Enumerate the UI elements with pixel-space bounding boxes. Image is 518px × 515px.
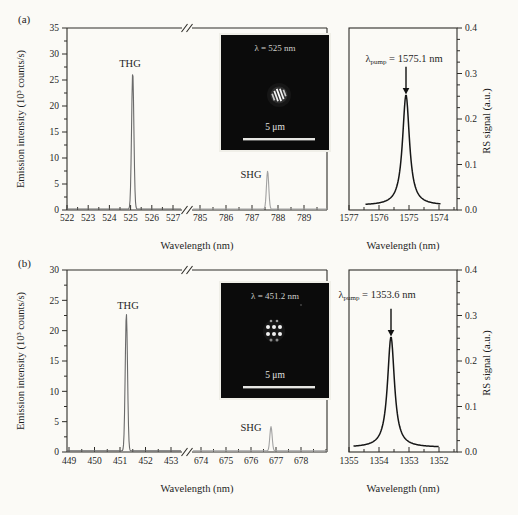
panel-b-label: (b) bbox=[18, 257, 31, 269]
tick-label: 0 bbox=[54, 447, 59, 457]
inset-scale-label-b: 5 μm bbox=[265, 370, 285, 380]
tick-label: 452 bbox=[138, 456, 153, 466]
rs-x-axis-label-a: Wavelength (nm) bbox=[367, 241, 440, 252]
tick-label: 527 bbox=[166, 213, 181, 223]
tick-label: 0.3 bbox=[465, 69, 477, 79]
pump-value: = 1575.1 nm bbox=[386, 53, 442, 64]
panel-a-label: (a) bbox=[18, 13, 30, 25]
inset-scale-label-a: 5 μm bbox=[265, 122, 285, 132]
dust-speck bbox=[300, 304, 302, 306]
pump-arrow-head-a bbox=[403, 88, 410, 94]
tick-label: 785 bbox=[193, 213, 208, 223]
shg-peak-label-a: SHG bbox=[240, 170, 261, 181]
tick-label: 30 bbox=[50, 49, 60, 59]
tick-label: 675 bbox=[219, 456, 234, 466]
thg-peak-label-b: THG bbox=[117, 301, 139, 312]
emission-y-axis-label-b: Emission intensity (10³ counts/s) bbox=[16, 292, 27, 430]
tick-label: 787 bbox=[245, 213, 260, 223]
tick-label: 25 bbox=[50, 75, 60, 85]
tick-label: 1577 bbox=[340, 213, 359, 223]
pump-subscript: pump bbox=[344, 294, 360, 302]
tick-label: 15 bbox=[50, 127, 60, 137]
tick-label: 25 bbox=[50, 296, 60, 306]
tick-label: 0.2 bbox=[465, 114, 477, 124]
raman-curve-b bbox=[354, 337, 439, 446]
pump-value: = 1353.6 nm bbox=[359, 289, 415, 300]
spot-halo bbox=[263, 320, 285, 342]
tick-label: 676 bbox=[244, 456, 259, 466]
emission-y-axis-label-a: Emission intensity (10³ counts/s) bbox=[16, 50, 27, 188]
tick-label: 0.3 bbox=[465, 311, 477, 321]
inset-wavelength-label-a: λ = 525 nm bbox=[254, 43, 295, 53]
figure: 0510152025303552252352452552652778578678… bbox=[0, 0, 518, 515]
tick-label: 524 bbox=[102, 213, 117, 223]
tick-label: 674 bbox=[194, 456, 209, 466]
tick-label: 1575 bbox=[400, 213, 419, 223]
tick-label: 453 bbox=[164, 456, 179, 466]
tick-label: 450 bbox=[87, 456, 102, 466]
tick-label: 0.2 bbox=[465, 356, 477, 366]
shg-peak-label-b: SHG bbox=[240, 423, 261, 434]
tick-label: 0.4 bbox=[465, 265, 477, 275]
tick-label: 788 bbox=[271, 213, 286, 223]
rs-y-axis-label-b: RS signal (a.u.) bbox=[482, 330, 493, 395]
scale-bar bbox=[243, 386, 315, 388]
tick-label: 0.4 bbox=[465, 23, 477, 33]
tick-label: 1355 bbox=[340, 456, 359, 466]
tick-label: 5 bbox=[54, 179, 59, 189]
tick-label: 1354 bbox=[370, 456, 389, 466]
tick-label: 1576 bbox=[370, 213, 389, 223]
microscope-inset-b: λ = 451.2 nm 5 μm bbox=[219, 281, 331, 400]
raman-curve-a bbox=[366, 95, 441, 204]
tick-label: 20 bbox=[50, 101, 60, 111]
tick-label: 20 bbox=[50, 326, 60, 336]
tick-label: 0 bbox=[54, 205, 59, 215]
tick-label: 35 bbox=[50, 23, 60, 33]
rs-y-axis-label-a: RS signal (a.u.) bbox=[482, 88, 493, 153]
pump-arrow-head-b bbox=[388, 330, 395, 336]
pump-annotation-b: λpump = 1353.6 nm bbox=[338, 290, 415, 302]
microscope-inset-a: λ = 525 nm 5 μm bbox=[219, 33, 331, 152]
tick-label: 10 bbox=[50, 387, 60, 397]
spectrum-line-a-seg0 bbox=[67, 75, 181, 209]
pump-annotation-a: λpump = 1575.1 nm bbox=[365, 54, 442, 66]
rs-x-axis-label-b: Wavelength (nm) bbox=[367, 484, 440, 495]
tick-label: 678 bbox=[294, 456, 309, 466]
tick-label: 449 bbox=[62, 456, 77, 466]
spectrum-line-b-seg0 bbox=[67, 315, 181, 451]
emission-x-axis-label-b: Wavelength (nm) bbox=[161, 484, 234, 495]
scale-bar bbox=[243, 138, 315, 140]
tick-label: 526 bbox=[145, 213, 160, 223]
tick-label: 0.0 bbox=[465, 205, 477, 215]
tick-label: 522 bbox=[60, 213, 75, 223]
tick-label: 15 bbox=[50, 356, 60, 366]
thg-peak-label-a: THG bbox=[119, 59, 141, 70]
emission-x-axis-label-a: Wavelength (nm) bbox=[161, 241, 234, 252]
tick-label: 1352 bbox=[430, 456, 449, 466]
tick-label: 789 bbox=[297, 213, 312, 223]
tick-label: 10 bbox=[50, 153, 60, 163]
tick-label: 786 bbox=[219, 213, 234, 223]
tick-label: 523 bbox=[81, 213, 96, 223]
pump-subscript: pump bbox=[371, 58, 387, 66]
tick-label: 0.1 bbox=[465, 160, 477, 170]
tick-label: 451 bbox=[113, 456, 128, 466]
inset-wavelength-label-b: λ = 451.2 nm bbox=[251, 291, 299, 301]
tick-label: 1353 bbox=[400, 456, 419, 466]
tick-label: 1574 bbox=[430, 213, 449, 223]
tick-label: 0.1 bbox=[465, 402, 477, 412]
tick-label: 30 bbox=[50, 265, 60, 275]
tick-label: 5 bbox=[54, 417, 59, 427]
tick-label: 0.0 bbox=[465, 447, 477, 457]
tick-label: 525 bbox=[123, 213, 138, 223]
tick-label: 677 bbox=[269, 456, 284, 466]
